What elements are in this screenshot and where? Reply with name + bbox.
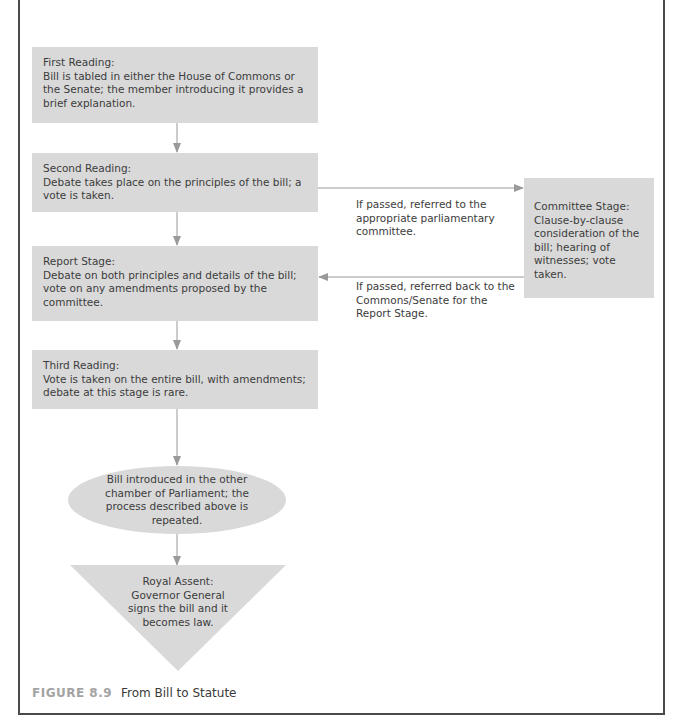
second-reading-node: Second Reading: Debate takes place on th… — [32, 153, 318, 212]
royal-assent-node: Royal Assent: Governor General signs the… — [70, 565, 286, 671]
node-description: Clause-by-clause consideration of the bi… — [534, 214, 644, 282]
third-reading-node: Third Reading: Vote is taken on the enti… — [32, 350, 318, 409]
edge-label-back-to-report: If passed, referred back to the Commons/… — [356, 280, 516, 321]
node-title: Committee Stage: — [534, 200, 644, 214]
node-description: Debate takes place on the principles of … — [43, 176, 307, 203]
figure-title: From Bill to Statute — [121, 686, 237, 700]
node-description: Governor General signs the bill and it b… — [118, 589, 238, 630]
first-reading-node: First Reading: Bill is tabled in either … — [32, 47, 318, 123]
node-description: Bill is tabled in either the House of Co… — [43, 70, 307, 111]
figure-number: FIGURE 8.9 — [32, 686, 112, 700]
node-text: Bill introduced in the other chamber of … — [84, 473, 270, 527]
node-title: Royal Assent: — [70, 575, 286, 589]
edge-label-to-committee: If passed, referred to the appropriate p… — [356, 198, 516, 239]
other-chamber-node: Bill introduced in the other chamber of … — [68, 466, 286, 534]
node-title: Report Stage: — [43, 255, 307, 269]
node-title: Second Reading: — [43, 162, 307, 176]
node-title: First Reading: — [43, 56, 307, 70]
node-description: Vote is taken on the entire bill, with a… — [43, 373, 307, 400]
figure-caption: FIGURE 8.9 From Bill to Statute — [32, 686, 237, 700]
report-stage-node: Report Stage: Debate on both principles … — [32, 246, 318, 321]
node-title: Third Reading: — [43, 359, 307, 373]
node-description: Debate on both principles and details of… — [43, 269, 307, 310]
committee-stage-node: Committee Stage: Clause-by-clause consid… — [524, 178, 654, 298]
